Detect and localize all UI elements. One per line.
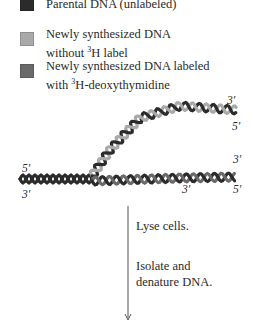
upper-daughter-strand-a	[171, 105, 179, 111]
upper-daughter-strand-a	[132, 121, 142, 122]
upper-daughter-strand-b	[117, 137, 127, 138]
upper-branch-5prime-label: 5′	[232, 120, 241, 132]
step-isolate-denature: Isolate and denature DNA.	[136, 258, 212, 290]
step-text: Isolate and	[136, 259, 191, 273]
parental-duplex-strand-a	[20, 179, 23, 183]
replication-fork-diagram: 3′ 5′ 5′ 3′ 3′ 5′ 3′	[0, 0, 253, 326]
step-text: denature DNA.	[136, 275, 212, 289]
upper-daughter-strand-a	[103, 153, 113, 154]
parental-5prime-label: 5′	[22, 162, 31, 174]
upper-daughter-strand-b	[126, 127, 136, 128]
upper-branch-3prime-label: 3′	[226, 94, 236, 106]
parental-3prime-label: 3′	[21, 188, 31, 200]
upper-daughter-strand-b	[151, 111, 159, 117]
dna-strands	[20, 102, 236, 184]
lower-branch-5prime-label: 5′	[233, 183, 242, 195]
lower-branch-3prime-label: 3′	[232, 153, 242, 165]
upper-daughter-strand-a	[123, 132, 131, 133]
upper-daughter-strand-b	[235, 106, 236, 107]
upper-daughter-strand-b	[99, 159, 109, 160]
lower-daughter-strand-a	[92, 181, 95, 185]
step-lyse-cells: Lyse cells.	[136, 218, 189, 234]
upper-daughter-strand-b	[109, 147, 117, 148]
lower-branch-gap-3prime-label: 3′	[181, 183, 191, 195]
upper-daughter-strand-a	[234, 113, 236, 114]
upper-daughter-strand-a	[112, 142, 122, 143]
step-text: Lyse cells.	[136, 219, 189, 233]
upper-daughter-strand-b	[92, 170, 102, 171]
